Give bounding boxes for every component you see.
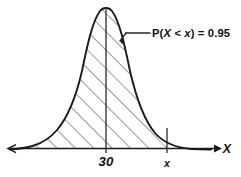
x-value-tick-label: x	[163, 157, 171, 169]
annotation-operator: <	[171, 27, 184, 39]
annotation-suffix: ) =	[191, 27, 208, 39]
x-axis-label: X	[222, 142, 232, 156]
annotation-probability-value: 0.95	[208, 27, 230, 39]
mean-tick-label: 30	[98, 154, 114, 169]
normal-distribution-figure: P(X < x) = 0.95 30 x X	[0, 0, 241, 177]
figure-canvas: P(X < x) = 0.95 30 x X	[0, 0, 241, 177]
annotation-prefix: P(	[152, 27, 164, 39]
x-axis-right-arrowhead	[214, 145, 222, 153]
probability-annotation: P(X < x) = 0.95	[152, 27, 230, 39]
